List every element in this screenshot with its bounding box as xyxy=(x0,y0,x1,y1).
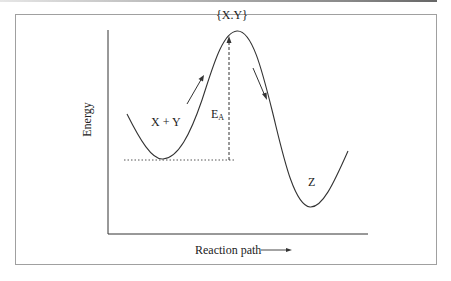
activation-energy-label: EA xyxy=(211,107,224,122)
y-axis-label: Energy xyxy=(80,102,95,136)
reactants-label: X + Y xyxy=(151,115,181,130)
activation-energy-subscript: A xyxy=(218,113,224,122)
arrowhead-downhill-icon xyxy=(262,93,267,101)
energy-diagram xyxy=(0,0,451,281)
uphill-arrow xyxy=(187,78,202,104)
arrowhead-right-icon xyxy=(286,248,292,252)
arrowhead-uphill-icon xyxy=(199,75,205,82)
downhill-arrow xyxy=(253,68,265,96)
product-label: Z xyxy=(308,175,315,190)
x-axis-label: Reaction path xyxy=(195,243,261,258)
transition-state-label: {X.Y} xyxy=(216,8,248,23)
